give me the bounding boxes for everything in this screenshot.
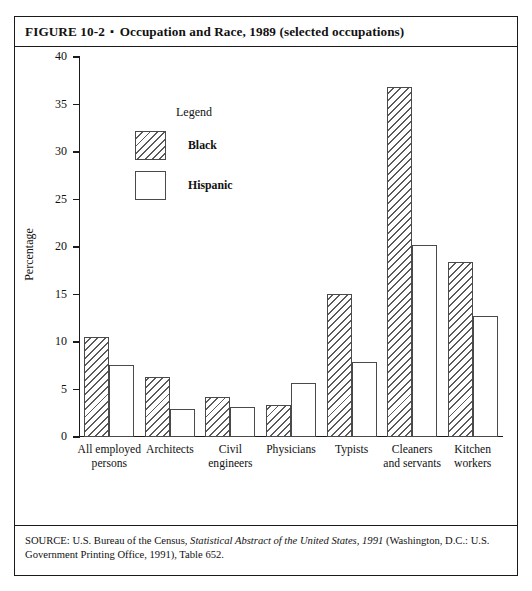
bar-black-5 [387, 87, 412, 437]
bar-hispanic-2 [230, 407, 255, 437]
bar-group [442, 57, 503, 437]
legend-item-hispanic: Hispanic [119, 169, 269, 202]
plot-area: Percentage 0510152025303540 All employed… [15, 47, 519, 527]
legend-title: Legend [119, 105, 269, 120]
bar-hispanic-3 [291, 383, 316, 437]
bar-group [321, 57, 382, 437]
y-tick-label-20: 20 [35, 240, 67, 252]
bar-hispanic-6 [473, 316, 498, 437]
y-tick-label-30: 30 [35, 145, 67, 157]
bar-group [261, 57, 322, 437]
x-category-label-6: Kitchenworkers [429, 443, 516, 472]
legend-item-black: Black [119, 129, 269, 162]
bar-group [382, 57, 443, 437]
bar-hispanic-5 [412, 245, 437, 437]
y-tick-label-5: 5 [35, 383, 67, 395]
y-tick-label-25: 25 [35, 193, 67, 205]
source-prefix: SOURCE: U.S. Bureau of the Census, [25, 535, 187, 546]
figure-source-bar: SOURCE: U.S. Bureau of the Census, Stati… [15, 525, 517, 575]
y-tick-label-15: 15 [35, 288, 67, 300]
legend-label-hispanic: Hispanic [188, 178, 233, 193]
legend-swatch-black [135, 131, 166, 160]
figure-title-text: Occupation and Race, 1989 (selected occu… [120, 24, 405, 39]
x-category-line: Kitchen [429, 443, 516, 457]
bar-hispanic-0 [109, 365, 134, 437]
figure-number: FIGURE 10-2 [25, 24, 105, 39]
figure-title-bar: FIGURE 10-2 ▪ Occupation and Race, 1989 … [15, 17, 517, 47]
figure-frame: FIGURE 10-2 ▪ Occupation and Race, 1989 … [14, 16, 518, 576]
title-bullet-icon: ▪ [108, 25, 116, 37]
page-title: FIGURE 10-2 ▪ Occupation and Race, 1989 … [15, 24, 404, 40]
bar-black-2 [205, 397, 230, 437]
source-publication-title: Statistical Abstract of the United State… [190, 535, 383, 546]
x-category-line: workers [429, 457, 516, 471]
bar-black-1 [145, 377, 170, 437]
y-tick-label-0: 0 [35, 430, 67, 442]
legend-swatch-hispanic [135, 171, 166, 200]
y-tick-label-40: 40 [35, 50, 67, 62]
bar-hispanic-4 [352, 362, 377, 437]
legend-label-black: Black [188, 138, 217, 153]
bar-black-4 [327, 294, 352, 437]
bar-black-3 [266, 405, 291, 437]
bar-black-0 [84, 337, 109, 437]
x-category-line: persons [66, 457, 153, 471]
source-note: SOURCE: U.S. Bureau of the Census, Stati… [25, 534, 507, 562]
x-category-line: engineers [187, 457, 274, 471]
bar-black-6 [448, 262, 473, 437]
y-tick-label-10: 10 [35, 335, 67, 347]
bar-hispanic-1 [170, 409, 195, 438]
chart-legend: Legend Black Hispanic [119, 105, 269, 209]
y-tick-label-35: 35 [35, 98, 67, 110]
